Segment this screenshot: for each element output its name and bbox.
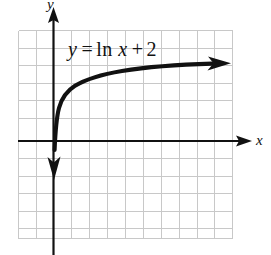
y-axis-label: y	[47, 0, 54, 12]
grid-lines	[19, 31, 233, 239]
equation-lhs: y	[68, 38, 78, 60]
equation-plus: +	[129, 38, 147, 60]
x-axis-label: x	[256, 133, 263, 148]
equation-function-name: ln	[96, 38, 113, 60]
equation-equals: =	[78, 38, 96, 60]
graph-figure: y=ln x+2 x y	[0, 0, 271, 255]
equation-argument: x	[118, 38, 128, 60]
equation-annotation: y=ln x+2	[68, 39, 157, 59]
equation-constant: 2	[146, 38, 157, 60]
